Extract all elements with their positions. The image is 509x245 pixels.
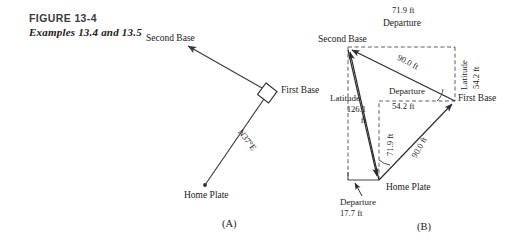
panel-b-right-latitude-word: Latitude xyxy=(459,60,469,90)
panel-b-top-departure-value: 71.9 ft xyxy=(392,6,414,16)
panel-b-label-home-plate: Home Plate xyxy=(386,182,431,193)
panel-b-mid-departure-word: Departure xyxy=(389,86,425,96)
panel-a-first-base-marker xyxy=(258,83,278,103)
panel-b-bottom-departure-word: Departure xyxy=(340,197,376,207)
panel-b-mid-vertical-value: 71.9 ft xyxy=(386,134,396,156)
panel-b-top-departure-word: Departure xyxy=(383,18,421,29)
panel-b-tag: (B) xyxy=(417,221,431,233)
panel-b-left-latitude-value: 126.1 xyxy=(330,105,366,115)
figure-13-4: FIGURE 13-4 Examples 13.4 and 13.5 xyxy=(0,0,509,245)
panel-a-label-first-base: First Base xyxy=(281,85,319,96)
panel-b-right-latitude-value: 54.2 ft xyxy=(472,67,482,89)
panel-a-leg-first-to-second xyxy=(188,46,262,88)
panel-b-mid-departure-value: 54.2 ft xyxy=(392,102,414,112)
panel-a-drawing xyxy=(0,0,509,245)
panel-b-label-first-base: First Base xyxy=(458,93,496,104)
panel-b-left-latitude-unit: ft xyxy=(330,116,366,126)
panel-a-label-second-base: Second Base xyxy=(146,33,195,44)
panel-b-label-second-base: Second Base xyxy=(318,34,367,45)
panel-a-label-home-plate: Home Plate xyxy=(184,190,229,201)
panel-b-left-latitude-word: Latitude xyxy=(330,93,360,103)
panel-a-tag: (A) xyxy=(222,218,237,230)
panel-b-bottom-departure-value: 17.7 ft xyxy=(340,209,362,219)
panel-b-departure-pointer xyxy=(355,183,362,196)
panel-a-leg-home-to-first xyxy=(203,96,266,187)
